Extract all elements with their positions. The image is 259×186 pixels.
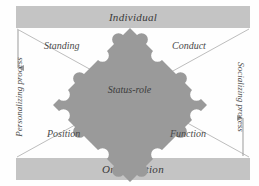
quadrant-label-position: Position xyxy=(47,128,80,139)
socializing-process-label: Socializing process xyxy=(236,52,246,142)
quadrant-label-conduct: Conduct xyxy=(172,40,206,51)
personalizing-process-label: Personalizing process xyxy=(14,52,24,142)
status-role-puzzle-shape xyxy=(53,28,207,182)
status-role-label: Status-role xyxy=(0,84,259,95)
quadrant-label-standing: Standing xyxy=(44,40,80,51)
status-role-diagram: Individual Organization xyxy=(0,0,259,186)
quadrant-label-function: Function xyxy=(170,128,206,139)
